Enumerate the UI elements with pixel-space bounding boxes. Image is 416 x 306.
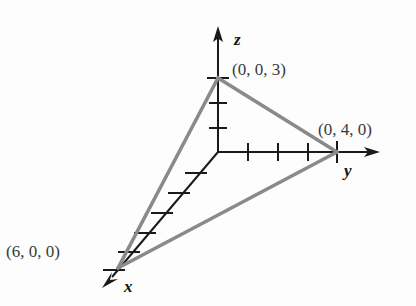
vertex-label-z-intercept: (0, 0, 3) [232,60,286,79]
coordinate-axes-figure: z y x (0, 0, 3) (0, 4, 0) (6, 0, 0) [0,0,416,306]
plane-triangle [118,78,337,268]
y-axis-label: y [342,161,352,180]
triangle-edge-z-to-y [218,78,337,152]
vertex-label-x-intercept: (6, 0, 0) [6,242,60,261]
x-axis-label: x [123,277,133,296]
x-axis-line [112,152,218,277]
vertex-label-y-intercept: (0, 4, 0) [318,120,372,139]
triangle-edge-y-to-x [118,152,337,268]
x-axis-arrowhead [102,272,118,288]
y-axis [218,141,380,163]
diagram-canvas: z y x (0, 0, 3) (0, 4, 0) (6, 0, 0) [0,0,416,306]
z-axis-label: z [233,30,241,49]
